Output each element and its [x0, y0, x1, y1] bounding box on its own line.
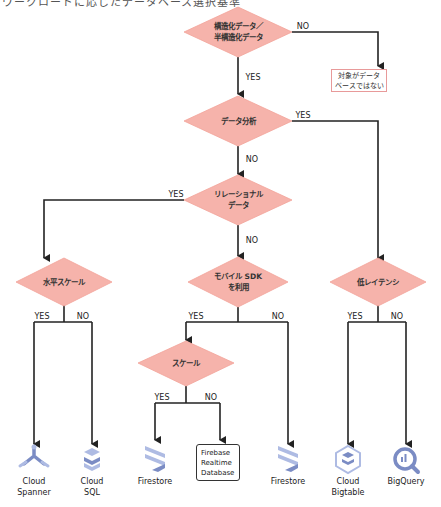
firestore-icon-2: [278, 446, 298, 472]
product-firestore: Firestore: [271, 476, 306, 487]
edge-label-no: NO: [246, 155, 258, 164]
edge-label-yes: YES: [295, 111, 310, 120]
decision-data-analytics: データ分析: [221, 116, 256, 127]
firebase-realtime-database-box: Firebase Realtime Database: [196, 444, 240, 481]
edge-label-no: NO: [77, 312, 89, 321]
edge-label-no: NO: [391, 312, 403, 321]
edge-label-no: NO: [297, 22, 309, 31]
decision-low-latency: 低レイテンシ: [357, 277, 399, 288]
edge-label-no: NO: [272, 312, 284, 321]
cloud-sql-icon: [84, 448, 100, 471]
edge-label-yes: YES: [154, 393, 169, 402]
cloud-bigtable-icon: [336, 446, 360, 473]
edge-label-yes: YES: [245, 73, 260, 82]
product-bigquery: BigQuery: [387, 476, 424, 487]
decision-structured-data: 構造化データ／ 半構造化データ: [214, 21, 263, 43]
edge-label-no: NO: [246, 236, 258, 245]
edge-label-yes: YES: [188, 312, 203, 321]
not-database-box: 対象がデータ ベースではない: [331, 69, 387, 92]
decision-horizontal-scale: 水平スケール: [43, 277, 85, 288]
edge-label-yes: YES: [347, 312, 362, 321]
firestore-icon-1: [145, 446, 165, 472]
decision-mobile-sdk: モバイル SDK を利用: [214, 271, 262, 293]
product-firestore: Firestore: [138, 476, 173, 487]
product-cloud-bigtable: Cloud Bigtable: [331, 476, 364, 498]
edge-label-yes: YES: [34, 312, 49, 321]
product-cloud-sql: Cloud SQL: [81, 476, 104, 498]
bigquery-icon: [395, 449, 418, 472]
edge-label-yes: YES: [168, 190, 183, 199]
decision-relational-data: リレーショナル データ: [214, 189, 263, 211]
cloud-spanner-icon: [20, 445, 48, 467]
decision-scale: スケール: [172, 358, 200, 369]
product-cloud-spanner: Cloud Spanner: [17, 476, 50, 498]
edge-label-no: NO: [205, 393, 217, 402]
